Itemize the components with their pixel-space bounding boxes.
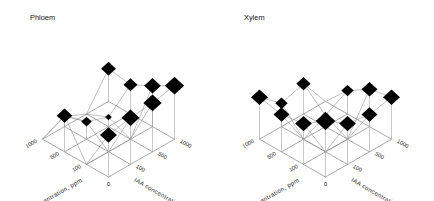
ga-tick: 1000 (24, 138, 38, 149)
xylem-axis-text: 100050010010005001000GA concentration, p… (237, 138, 415, 201)
iaa-axis-label: IAA concentration, ppm (350, 176, 415, 201)
iaa-tick: 500 (157, 150, 168, 160)
ga-tick: 1000 (241, 138, 255, 149)
ga-tick: 500 (49, 150, 60, 160)
phloem-plot: 100050010010005001000GA concentration, p… (0, 0, 217, 201)
ga-tick: 500 (266, 150, 277, 160)
ga-axis-label: GA concentration, ppm (237, 176, 301, 201)
iaa-axis-label: IAA concentration, ppm (133, 176, 198, 201)
xylem-plot: 100050010010005001000GA concentration, p… (217, 0, 434, 201)
iaa-tick: 100 (135, 163, 146, 173)
phloem-title: Phloem (30, 13, 55, 22)
origin-tick: 0 (324, 181, 327, 187)
iaa-tick: 1000 (179, 138, 193, 149)
iaa-tick: 500 (374, 150, 385, 160)
phloem-markers (57, 62, 184, 143)
xylem-title: Xylem (244, 13, 265, 22)
xylem-mesh (260, 84, 392, 177)
figure-canvas: 100050010010005001000GA concentration, p… (0, 0, 434, 201)
iaa-tick: 100 (352, 163, 363, 173)
phloem-axis-text: 100050010010005001000GA concentration, p… (20, 138, 198, 201)
iaa-tick: 1000 (396, 138, 410, 149)
ga-tick: 100 (288, 163, 299, 173)
ga-tick: 100 (71, 163, 82, 173)
panel-phloem: 100050010010005001000GA concentration, p… (0, 0, 217, 201)
ga-axis-label: GA concentration, ppm (20, 176, 84, 201)
origin-tick: 0 (107, 181, 110, 187)
panel-xylem: 100050010010005001000GA concentration, p… (217, 0, 434, 201)
xylem-markers (251, 77, 400, 131)
